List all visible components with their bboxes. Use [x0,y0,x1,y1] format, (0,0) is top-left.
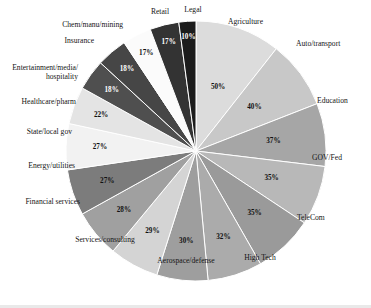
pie-category-label: TeleCom [297,213,325,222]
pie-slice-value-label: 27% [100,177,114,185]
pie-category-label: Entertainment/media/hospitality [12,63,79,81]
pie-category-label: GOV/Fed [312,153,342,162]
pie-slice-value-label: 35% [247,209,261,217]
pie-chart-canvas: 50%40%37%35%35%32%30%29%28%27%27%22%18%1… [0,0,371,308]
pie-slice-value-label: 10% [181,33,195,41]
pie-category-label: Financial services [25,197,80,206]
pie-category-label: Aerospace/defense [157,256,215,265]
pie-category-label: Healthcare/pharm [22,97,76,106]
pie-slice-value-label: 18% [105,86,119,94]
pie-slice-value-label: 30% [179,237,193,245]
pie-category-label: High Tech [244,253,276,262]
pie-category-label: Education [317,96,348,105]
pie-slice-value-label: 37% [266,137,280,145]
pie-slice-value-label: 29% [145,227,159,235]
pie-slice-value-label: 17% [139,49,153,57]
pie-slice-value-label: 18% [120,65,134,73]
pie-chart: 50%40%37%35%35%32%30%29%28%27%27%22%18%1… [0,0,371,308]
pie-category-label: Agriculture [228,17,264,26]
pie-category-label: State/local gov [27,127,73,136]
pie-category-label: Services/consulting [75,235,135,244]
pie-category-label: Chem/manu/mining [62,20,123,29]
pie-slice-value-label: 27% [93,143,107,151]
pie-category-label: Energy/utilities [28,161,75,170]
pie-category-label: Auto/transport [296,39,341,48]
pie-category-label: Retail [151,7,169,16]
pie-slice-value-label: 32% [216,233,230,241]
pie-slice-value-label: 17% [162,38,176,46]
pie-slice-value-label: 22% [94,111,108,119]
pie-slice-value-label: 40% [247,103,261,111]
pie-category-label: Insurance [64,36,94,45]
pie-slice-value-label: 35% [264,174,278,182]
pie-category-label: Legal [184,5,201,14]
pie-slice-value-label: 28% [117,206,131,214]
pie-slice-value-label: 50% [211,83,225,91]
